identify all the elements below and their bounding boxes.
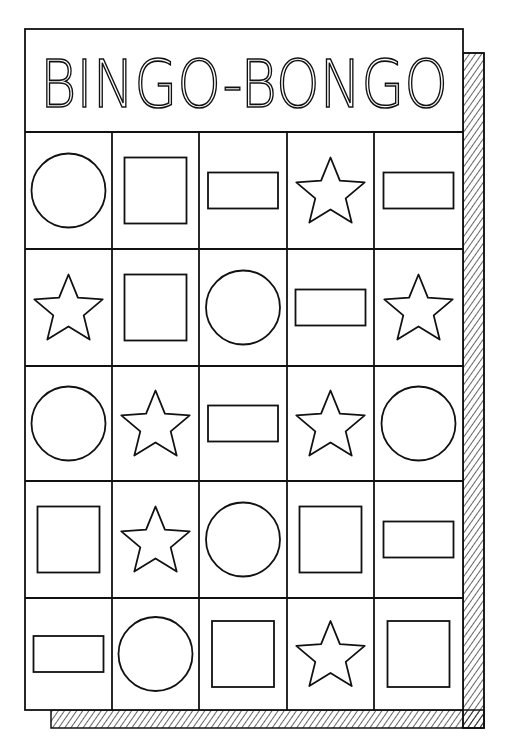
bingo-cell[interactable] [287, 598, 374, 710]
bingo-cell[interactable] [25, 598, 112, 710]
bingo-cell[interactable] [25, 366, 112, 481]
bingo-cell[interactable] [199, 366, 287, 481]
bingo-cell[interactable] [112, 249, 199, 366]
bingo-cell[interactable] [199, 249, 287, 366]
bingo-cell[interactable] [199, 132, 287, 249]
bingo-cell[interactable] [374, 366, 463, 481]
bingo-cell[interactable] [374, 132, 463, 249]
bingo-cell[interactable] [287, 249, 374, 366]
bingo-cell[interactable] [287, 132, 374, 249]
bingo-cell[interactable] [112, 481, 199, 598]
bingo-cell[interactable] [112, 366, 199, 481]
bingo-cell[interactable] [199, 481, 287, 598]
bingo-cell[interactable] [25, 481, 112, 598]
bingo-grid [25, 132, 463, 710]
bingo-card-canvas: BINGO-BONGO [0, 0, 509, 751]
bingo-cell[interactable] [374, 481, 463, 598]
bingo-cell[interactable] [112, 132, 199, 249]
bingo-cell[interactable] [287, 481, 374, 598]
card-title: BINGO-BONGO [40, 46, 448, 123]
bingo-cell[interactable] [287, 366, 374, 481]
bingo-cell[interactable] [25, 132, 112, 249]
bingo-cell[interactable] [112, 598, 199, 710]
bingo-cell[interactable] [25, 249, 112, 366]
bingo-cell[interactable] [199, 598, 287, 710]
bingo-cell[interactable] [374, 598, 463, 710]
bingo-cell[interactable] [374, 249, 463, 366]
